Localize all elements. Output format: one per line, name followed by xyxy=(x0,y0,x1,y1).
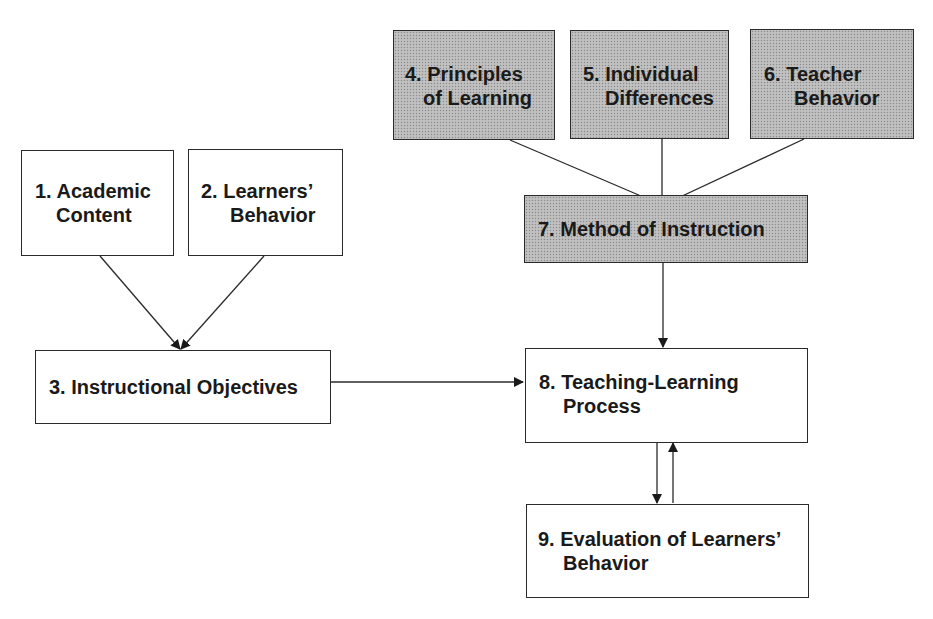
node-label-line1: 4. Principles xyxy=(405,62,523,86)
node-label-line1: 6. Teacher xyxy=(764,62,861,86)
node-learners-behavior: 2. Learners’ Behavior xyxy=(188,149,343,256)
node-method-of-instruction: 7. Method of Instruction xyxy=(524,195,808,263)
node-principles-of-learning: 4. Principles of Learning xyxy=(393,30,555,140)
node-teaching-learning-process: 8. Teaching-Learning Process xyxy=(525,348,808,443)
node-label-line1: 8. Teaching-Learning xyxy=(539,370,739,394)
node-label-line1: 9. Evaluation of Learners’ xyxy=(538,527,781,551)
node-label-line2: of Learning xyxy=(423,86,532,110)
node-instructional-objectives: 3. Instructional Objectives xyxy=(35,350,331,424)
node-teacher-behavior: 6. Teacher Behavior xyxy=(750,29,914,139)
node-label-line2: Content xyxy=(56,203,132,227)
node-label-line2: Behavior xyxy=(230,203,316,227)
node-label-line1: 1. Academic xyxy=(35,179,151,203)
node-label-line2: Differences xyxy=(605,86,714,110)
node-label-line2: Behavior xyxy=(794,86,880,110)
node-label-line2: Process xyxy=(563,394,641,418)
node-label-line1: 3. Instructional Objectives xyxy=(49,375,298,399)
node-label-line2: Behavior xyxy=(563,551,649,575)
node-evaluation-of-learners-behavior: 9. Evaluation of Learners’ Behavior xyxy=(526,504,809,598)
arrow-2-to-3 xyxy=(181,256,264,349)
node-individual-differences: 5. Individual Differences xyxy=(570,30,729,139)
node-label-line1: 5. Individual xyxy=(583,62,699,86)
node-label-line1: 2. Learners’ xyxy=(201,179,313,203)
node-academic-content: 1. Academic Content xyxy=(21,150,174,256)
arrow-1-to-3 xyxy=(100,256,180,349)
node-label-line1: 7. Method of Instruction xyxy=(538,217,765,241)
